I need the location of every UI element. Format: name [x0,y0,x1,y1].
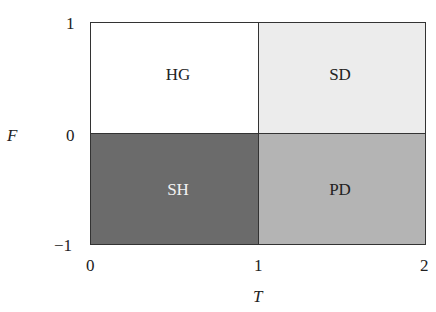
divider-horizontal [90,133,426,134]
region-label-sd: SD [329,65,351,85]
region-label-hg: HG [166,65,191,85]
x-tick-0: 0 [86,256,95,276]
region-label-pd: PD [329,180,351,200]
y-tick-1: 1 [66,14,75,34]
y-tick-0: 0 [66,126,75,146]
region-label-sh: SH [167,180,189,200]
x-tick-2: 2 [420,256,429,276]
y-axis-label: F [7,126,17,146]
x-axis-label: T [253,287,262,307]
x-tick-1: 1 [254,256,263,276]
y-tick-neg1: −1 [54,236,72,256]
